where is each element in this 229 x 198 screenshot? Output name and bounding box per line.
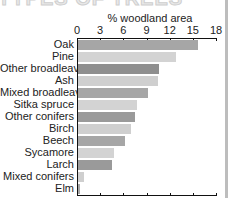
category-label: Beech: [0, 134, 74, 146]
category-label: Oak: [0, 38, 74, 50]
category-label: Elm: [0, 182, 74, 194]
category-label: Larch: [0, 158, 74, 170]
x-tick-label: 18: [206, 24, 226, 36]
x-tick-mark: [100, 193, 101, 196]
x-tick-label: 15: [183, 24, 203, 36]
x-tick-mark: [123, 193, 124, 196]
x-tick-label: 12: [160, 24, 180, 36]
x-axis-title: % woodland area: [100, 12, 200, 24]
category-label: Birch: [0, 122, 74, 134]
category-label: Sitka spruce: [0, 98, 74, 110]
x-tick-label: 3: [90, 24, 110, 36]
x-tick-mark: [216, 193, 217, 196]
bar: [78, 52, 176, 62]
category-label: Sycamore: [0, 146, 74, 158]
bar: [78, 136, 125, 146]
page-header: TYPES OF TREES: [0, 0, 225, 8]
bar: [78, 148, 114, 158]
x-tick-label: 9: [137, 24, 157, 36]
page-title: TYPES OF TREES: [0, 0, 183, 8]
bar: [78, 112, 135, 122]
bar: [78, 184, 80, 194]
category-label: Mixed conifers: [0, 170, 74, 182]
category-label: Mixed broadleaves: [0, 86, 74, 98]
bar: [78, 160, 112, 170]
x-tick-mark: [193, 193, 194, 196]
bar: [78, 88, 148, 98]
category-label: Other broadleaves: [0, 62, 74, 74]
category-label: Other conifers: [0, 110, 74, 122]
bar: [78, 100, 137, 110]
x-tick-label: 6: [113, 24, 133, 36]
bar: [78, 172, 84, 182]
bar: [78, 76, 158, 86]
category-label: Ash: [0, 74, 74, 86]
x-tick-mark: [170, 193, 171, 196]
bar: [78, 40, 198, 50]
category-label: Pine: [0, 50, 74, 62]
x-tick-label: 0: [67, 24, 87, 36]
x-tick-mark: [216, 38, 217, 41]
bar: [78, 124, 131, 134]
bar: [78, 64, 159, 74]
x-tick-mark: [147, 193, 148, 196]
